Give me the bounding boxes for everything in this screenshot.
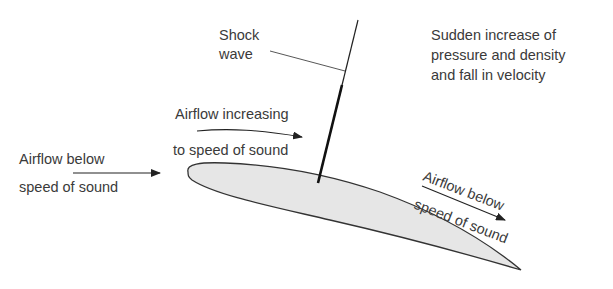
effect-label: Sudden increase of pressure and density … [431,25,566,85]
shock-wave-label: Shock wave [219,26,259,64]
incoming-airflow-label-line1: Airflow below [19,150,104,169]
shock-label-leader [270,51,345,71]
incoming-airflow-label-line2: speed of sound [19,178,118,197]
upper-airflow-arrow [197,130,302,137]
upper-airflow-label-line1: Airflow increasing [175,105,289,124]
upper-airflow-label-line2: to speed of sound [173,141,288,160]
